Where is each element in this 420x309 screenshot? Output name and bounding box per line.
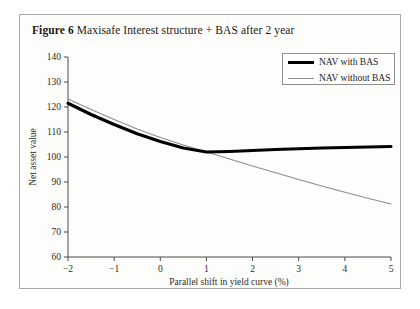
x-axis-tick-label: 2 bbox=[250, 264, 255, 274]
x-axis-ticks: −2−1012345 bbox=[63, 257, 394, 274]
legend-item-nav-with-bas: NAV with BAS bbox=[283, 54, 394, 70]
legend-label: NAV with BAS bbox=[319, 57, 378, 67]
y-axis-tick-label: 130 bbox=[47, 77, 62, 87]
figure-frame: Figure 6 Maxisafe Interest structure + B… bbox=[19, 14, 401, 289]
chart-series-group bbox=[68, 99, 391, 204]
y-axis-tick-label: 60 bbox=[52, 252, 62, 262]
y-axis-tick-label: 90 bbox=[52, 177, 62, 187]
y-axis-tick-label: 100 bbox=[47, 152, 62, 162]
x-axis-tick-label: 0 bbox=[158, 264, 163, 274]
legend-label: NAV without BAS bbox=[319, 73, 390, 83]
legend-swatch-line-icon bbox=[288, 61, 314, 64]
series-line-nav-with-bas bbox=[68, 103, 391, 152]
y-axis-tick-label: 140 bbox=[47, 52, 62, 62]
y-axis-title: Net asset value bbox=[28, 128, 38, 186]
y-axis-tick-label: 70 bbox=[52, 227, 62, 237]
x-axis-tick-label: −2 bbox=[63, 264, 73, 274]
y-axis-tick-label: 120 bbox=[47, 102, 62, 112]
x-axis-tick-label: 5 bbox=[389, 264, 394, 274]
x-axis-tick-label: 1 bbox=[204, 264, 209, 274]
x-axis-tick-label: −1 bbox=[109, 264, 119, 274]
y-axis-tick-label: 110 bbox=[47, 127, 61, 137]
x-axis-title: Parallel shift in yield curve (%) bbox=[169, 277, 289, 288]
chart-axes bbox=[68, 57, 391, 257]
legend-item-nav-without-bas: NAV without BAS bbox=[283, 70, 394, 86]
legend-swatch-line-icon bbox=[288, 78, 314, 79]
x-axis-tick-label: 3 bbox=[296, 264, 301, 274]
y-axis-tick-label: 80 bbox=[52, 202, 62, 212]
y-axis-ticks: 60708090100110120130140 bbox=[47, 52, 68, 262]
chart-legend: NAV with BAS NAV without BAS bbox=[282, 53, 395, 85]
x-axis-tick-label: 4 bbox=[342, 264, 347, 274]
